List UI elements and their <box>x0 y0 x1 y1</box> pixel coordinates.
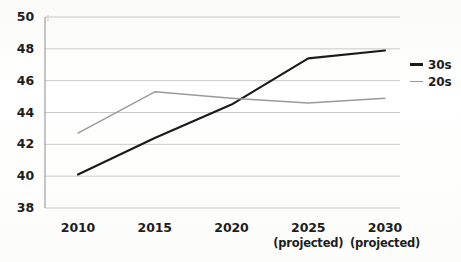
x-tick-label-year: 2015 <box>138 220 172 235</box>
y-tick-label: 50 <box>4 9 34 24</box>
x-tick-label: 2030(projected) <box>340 220 430 250</box>
axis-lines <box>45 15 48 208</box>
legend-swatch-icon <box>410 81 423 83</box>
legend-item-30s: 30s <box>410 56 460 73</box>
y-tick-label: 40 <box>4 168 34 183</box>
y-tick-label: 46 <box>4 73 34 88</box>
x-tick-label-year: 2020 <box>214 220 248 235</box>
gridlines <box>45 17 400 208</box>
legend-label: 30s <box>428 58 452 72</box>
chart-legend: 30s20s <box>410 56 460 90</box>
x-tick-label-year: 2010 <box>61 220 95 235</box>
legend-item-20s: 20s <box>410 73 460 90</box>
y-tick-label: 42 <box>4 136 34 151</box>
y-tick-label: 44 <box>4 105 34 120</box>
x-tick-label-year: 2025 <box>291 220 325 235</box>
line-chart: 38404244464850 2010201520202025(projecte… <box>0 0 461 262</box>
x-tick-label-year: 2030 <box>368 220 402 235</box>
x-tick-label-note: (projected) <box>340 236 430 250</box>
legend-label: 20s <box>428 75 452 89</box>
y-tick-label: 38 <box>4 200 34 215</box>
legend-swatch-icon <box>410 63 423 65</box>
y-tick-label: 48 <box>4 41 34 56</box>
